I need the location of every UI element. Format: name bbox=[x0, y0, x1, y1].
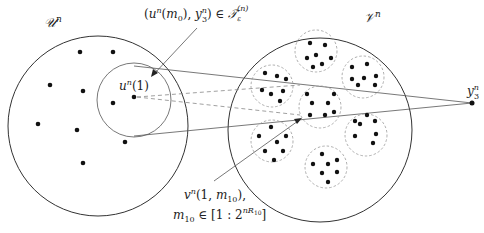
set-v-circle bbox=[228, 38, 412, 222]
dashed-line-lower bbox=[137, 97, 300, 115]
u1-label: un(1) bbox=[119, 78, 149, 93]
cone-line-upper bbox=[134, 66, 472, 103]
dashed-line-upper bbox=[137, 85, 300, 97]
codebook-diagram: 𝒰n 𝒱n un(1) yn3 (un(m0), yn3) ∈ 𝒯ε(n) vn… bbox=[0, 0, 484, 233]
y3-label: yn3 bbox=[466, 83, 479, 101]
arrow-top bbox=[154, 28, 197, 74]
typical-set-circle bbox=[97, 63, 171, 137]
bin-codeword-annotation: vn(1, m10), bbox=[184, 187, 246, 204]
typicality-annotation: (un(m0), yn3) ∈ 𝒯ε(n) bbox=[144, 4, 248, 24]
u-codewords bbox=[36, 50, 137, 166]
arrow-top-head bbox=[151, 69, 158, 77]
arrow-bottom bbox=[214, 121, 298, 181]
cone-line-lower bbox=[134, 103, 472, 136]
set-v-label: 𝒱n bbox=[364, 9, 381, 25]
bin-index-range-annotation: m10 ∈ [1 : 2nR10] bbox=[173, 206, 266, 224]
set-u-label: 𝒰n bbox=[44, 14, 62, 30]
v-bins bbox=[251, 30, 387, 188]
set-u-circle bbox=[8, 36, 188, 216]
y3-point bbox=[470, 101, 475, 106]
